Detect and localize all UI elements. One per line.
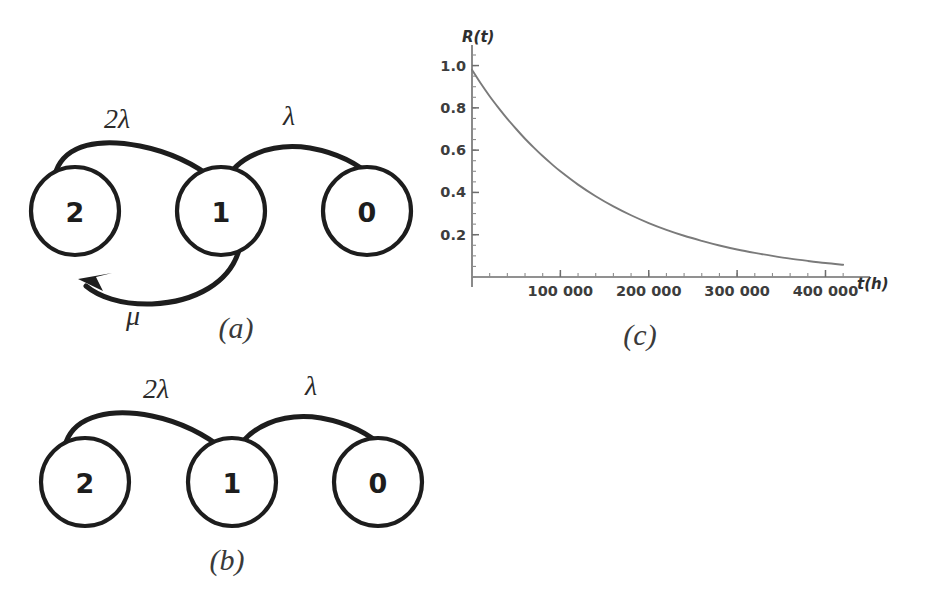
rate-label-2-lambda: 2λ bbox=[143, 373, 169, 404]
node-state-2[interactable]: 2 bbox=[41, 438, 129, 526]
rate-label-lambda: λ bbox=[282, 100, 295, 131]
x-axis-label: t(h) bbox=[857, 275, 889, 293]
chart-svg: 100 000200 000300 000400 0000.20.40.60.8… bbox=[440, 0, 932, 360]
panel-a-caption: (a) bbox=[219, 311, 254, 345]
chart-plot-area: 100 000200 000300 000400 0000.20.40.60.8… bbox=[440, 45, 870, 299]
chart-series-line bbox=[472, 70, 843, 265]
edge-1-to-2-path bbox=[86, 250, 239, 304]
node-state-0-label: 0 bbox=[369, 468, 388, 499]
node-state-2[interactable]: 2 bbox=[31, 167, 119, 255]
y-axis-tick-label: 0.6 bbox=[440, 142, 466, 158]
panel-a-svg: 2 1 0 2λ λ μ (a) bbox=[0, 60, 460, 360]
edge-1-to-2-arrowhead bbox=[78, 273, 112, 291]
panel-b-markov-chain-nonrepairable: 2 1 0 2λ λ (b) bbox=[0, 360, 460, 616]
x-axis-tick-label: 300 000 bbox=[704, 283, 770, 299]
panel-b-caption: (b) bbox=[210, 543, 245, 577]
panel-b-svg: 2 1 0 2λ λ (b) bbox=[0, 360, 460, 616]
node-state-0[interactable]: 0 bbox=[334, 438, 422, 526]
rate-label-lambda: λ bbox=[304, 370, 317, 401]
node-state-1[interactable]: 1 bbox=[177, 167, 265, 255]
node-state-2-label: 2 bbox=[66, 197, 85, 228]
rate-label-2-lambda: 2λ bbox=[104, 103, 130, 134]
panel-c-reliability-chart: 100 000200 000300 000400 0000.20.40.60.8… bbox=[440, 0, 932, 360]
y-axis-tick-label: 0.8 bbox=[440, 100, 466, 116]
figure-root: 2 1 0 2λ λ μ (a) bbox=[0, 0, 932, 616]
x-axis-tick-label: 100 000 bbox=[528, 283, 594, 299]
node-state-1-label: 1 bbox=[223, 468, 242, 499]
edge-1-to-2 bbox=[78, 250, 239, 304]
y-axis-tick-label: 0.4 bbox=[440, 184, 466, 200]
panel-a-markov-chain-repairable: 2 1 0 2λ λ μ (a) bbox=[0, 60, 460, 360]
y-axis-tick-label: 1.0 bbox=[440, 58, 466, 74]
x-axis-tick-label: 200 000 bbox=[616, 283, 682, 299]
node-state-2-label: 2 bbox=[76, 468, 95, 499]
node-state-0-label: 0 bbox=[358, 197, 377, 228]
node-state-1[interactable]: 1 bbox=[188, 438, 276, 526]
y-axis-label: R(t) bbox=[462, 28, 494, 46]
node-state-1-label: 1 bbox=[212, 197, 231, 228]
y-axis-tick-label: 0.2 bbox=[440, 227, 466, 243]
panel-c-caption: (c) bbox=[623, 318, 656, 352]
rate-label-mu: μ bbox=[125, 300, 140, 331]
x-axis-tick-label: 400 000 bbox=[793, 283, 859, 299]
node-state-0[interactable]: 0 bbox=[323, 167, 411, 255]
